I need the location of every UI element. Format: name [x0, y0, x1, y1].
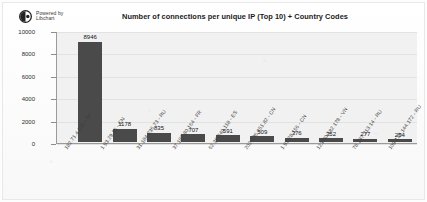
- bar-slot[interactable]: 707: [176, 32, 210, 142]
- libchart-logo-icon: [19, 10, 32, 23]
- y-axis-tick-label: 8000: [0, 51, 35, 57]
- y-axis-tick-mark: [51, 54, 56, 55]
- x-axis-label-slot: 62.36.240.118 - ES: [201, 145, 237, 197]
- powered-by-libchart-logo: Powered by Libchart: [19, 7, 97, 25]
- y-axis-tick-label: 2000: [0, 118, 35, 124]
- y-axis-tick-mark: [51, 144, 56, 145]
- logo-text: Powered by Libchart: [36, 11, 63, 22]
- x-axis-label-slot: 1.93.28.156 - CN: [273, 145, 309, 197]
- x-axis-label-slot: 78.137.213.14 - RU: [345, 145, 381, 197]
- logo-line-2: Libchart: [36, 16, 63, 21]
- bar-slot[interactable]: 835: [142, 32, 176, 142]
- y-axis-tick-label: 6000: [0, 73, 35, 79]
- y-axis-tick-label: 0: [0, 141, 35, 147]
- y-axis-tick-mark: [51, 122, 56, 123]
- bar-slot[interactable]: 254: [383, 32, 417, 142]
- x-axis-label-slot: 109.120.144.172 - RU: [381, 145, 417, 197]
- y-axis-tick-label: 4000: [0, 96, 35, 102]
- x-axis-label-slot: 37.187.80.164 - FR: [165, 145, 201, 197]
- chart-screenshot: Powered by Libchart Number of connection…: [0, 0, 427, 202]
- x-axis-labels: 182.71.4.231 - IN1.93.29.16 - CN31.184.2…: [57, 145, 417, 197]
- x-axis-label-slot: 202.106.251.82 - CN: [237, 145, 273, 197]
- y-axis-tick-mark: [51, 99, 56, 100]
- y-axis-tick-label: 10000: [0, 29, 35, 35]
- x-axis-label-slot: 31.184.236.73 - RU: [129, 145, 165, 197]
- x-axis-label-slot: 182.71.4.231 - IN: [57, 145, 93, 197]
- bar-value-label: 8946: [84, 34, 97, 40]
- x-axis-label-slot: 1.93.29.16 - CN: [93, 145, 129, 197]
- x-axis-label-slot: 123.30.182.178 - VN: [309, 145, 345, 197]
- plot-area: 89461178835707591509376352277254: [56, 32, 417, 144]
- plot-wrapper: 89461178835707591509376352277254 0200040…: [41, 32, 417, 144]
- y-axis-tick-mark: [51, 32, 56, 33]
- chart-title: Number of connections per unique IP (Top…: [100, 12, 370, 21]
- y-axis-tick-mark: [51, 77, 56, 78]
